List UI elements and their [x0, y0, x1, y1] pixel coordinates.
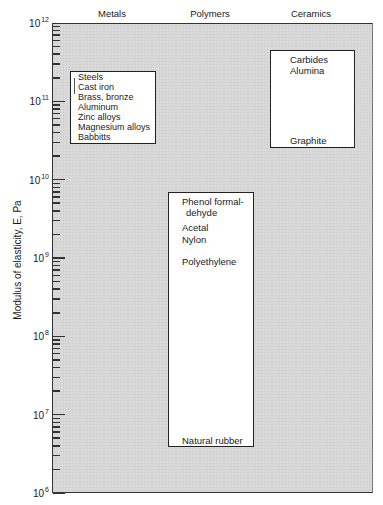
y-tick	[53, 183, 60, 185]
group-label-polymers: Polymers	[165, 8, 255, 19]
y-tick	[53, 155, 60, 157]
y-tick	[53, 353, 60, 355]
ceramic-alumina: Alumina	[290, 65, 324, 76]
y-tick	[53, 53, 60, 55]
y-tick	[53, 202, 60, 204]
ceramic-carbides: Carbides	[290, 54, 328, 65]
y-tick	[53, 261, 60, 263]
y-tick	[53, 108, 60, 110]
y-tick	[53, 377, 60, 379]
y-axis-title: Modulus of elasticity, E, Pa	[12, 200, 23, 319]
y-tick	[53, 445, 60, 447]
y-tick	[53, 418, 60, 420]
group-label-ceramics: Ceramics	[266, 8, 356, 19]
y-tick	[53, 431, 60, 433]
ytick-label-1e10: 1010	[29, 173, 49, 186]
polymer-phenol-1: Phenol formal-	[182, 196, 244, 207]
ceramic-graphite: Graphite	[290, 135, 326, 146]
metal-brass-bronze: Brass, bronze	[78, 92, 134, 102]
metal-zinc-alloys: Zinc alloys	[78, 112, 121, 122]
ytick-label-1e11: 1011	[30, 94, 49, 107]
metal-cast-iron: Cast iron	[78, 82, 114, 92]
y-tick	[53, 113, 60, 115]
y-tick	[53, 63, 60, 65]
y-tick	[53, 437, 60, 439]
y-tick	[53, 142, 60, 144]
y-tick	[53, 343, 60, 345]
y-tick	[53, 492, 65, 494]
y-tick	[53, 298, 60, 300]
y-tick	[53, 77, 60, 79]
metal-aluminum: Aluminum	[78, 102, 118, 112]
y-tick	[53, 191, 60, 193]
y-tick	[53, 339, 60, 341]
y-tick	[53, 196, 60, 198]
y-tick	[53, 101, 65, 103]
metal-magnesium-alloys: Magnesium alloys	[78, 122, 150, 132]
y-tick	[53, 312, 60, 314]
polymer-nylon: Nylon	[182, 234, 206, 245]
polymer-acetal: Acetal	[182, 222, 208, 233]
ytick-label-1e7: 107	[33, 408, 49, 421]
y-tick	[53, 124, 60, 126]
y-tick	[53, 469, 60, 471]
ytick-label-1e9: 109	[33, 251, 49, 264]
y-tick	[53, 30, 60, 32]
metal-babbitts: Babbitts	[78, 132, 111, 142]
polymer-natural-rubber: Natural rubber	[182, 435, 243, 446]
y-tick	[53, 269, 60, 271]
polymer-phenol-2: dehyde	[186, 207, 217, 218]
metal-steels: Steels	[78, 72, 103, 82]
range-box-polymers	[168, 192, 254, 447]
y-tick	[53, 414, 65, 416]
y-tick	[53, 265, 60, 267]
polymer-polyethylene: Polyethylene	[182, 256, 236, 267]
y-tick	[53, 40, 60, 42]
y-tick	[53, 336, 65, 338]
y-tick	[53, 220, 60, 222]
y-tick	[53, 257, 65, 259]
y-tick	[53, 26, 60, 28]
y-tick	[53, 118, 60, 120]
group-label-metals: Metals	[67, 8, 157, 19]
y-tick	[53, 34, 60, 36]
y-tick	[53, 288, 60, 290]
y-tick	[53, 367, 60, 369]
brace-mark	[74, 78, 77, 94]
y-tick	[53, 426, 60, 428]
ytick-label-1e6: 106	[33, 486, 49, 499]
y-tick	[53, 422, 60, 424]
y-tick	[53, 359, 60, 361]
y-tick	[53, 348, 60, 350]
y-tick	[53, 390, 60, 392]
y-tick	[53, 455, 60, 457]
y-tick	[53, 187, 60, 189]
y-tick	[53, 210, 60, 212]
y-tick	[53, 104, 60, 106]
y-tick	[53, 179, 65, 181]
y-tick	[53, 132, 60, 134]
ytick-label-1e12: 1012	[29, 16, 49, 29]
ytick-label-1e8: 108	[33, 329, 49, 342]
y-tick	[53, 281, 60, 283]
y-tick	[53, 46, 60, 48]
y-tick	[53, 234, 60, 236]
y-tick	[53, 275, 60, 277]
